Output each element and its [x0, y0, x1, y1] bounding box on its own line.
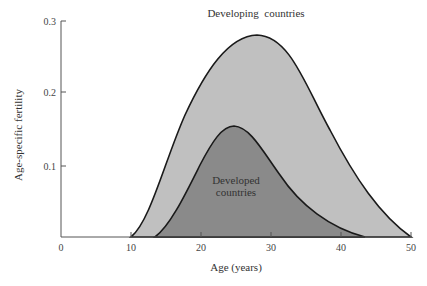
x-tick-label: 30: [266, 242, 276, 253]
y-tick-label: 0.3: [44, 16, 57, 27]
x-axis-title: Age (years): [210, 261, 262, 274]
x-tick-label: 10: [126, 242, 136, 253]
y-tick-label: 0.2: [44, 87, 57, 98]
y-axis-title: Age-specific fertility: [12, 89, 24, 181]
developed-countries-label-line1: Developed: [212, 174, 260, 186]
developing-countries-label: Developing countries: [207, 7, 304, 19]
developed-countries-label-line2: countries: [216, 186, 256, 198]
fertility-chart: 0.3 0.2 0.1 0 10 20 30 40 50 Age (years)…: [0, 0, 427, 286]
y-tick-label: 0.1: [44, 161, 57, 172]
x-tick-label: 50: [406, 242, 416, 253]
x-tick-label: 0: [59, 242, 64, 253]
x-tick-label: 20: [196, 242, 206, 253]
x-tick-label: 40: [336, 242, 346, 253]
